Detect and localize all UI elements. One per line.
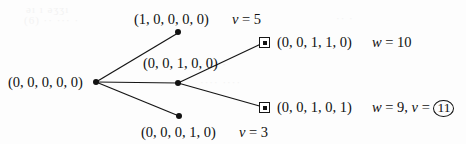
- node-label-leaf-top-text: (0, 0, 1, 1, 0): [277, 34, 352, 50]
- node-attr-leaf-bottom: w = 9, v = 11: [372, 100, 454, 117]
- node-label-leaf-top: (0, 0, 1, 1, 0): [277, 35, 352, 50]
- edge-middle-to-leaf-bottom: [178, 83, 263, 107]
- branch-and-bound-tree-figure: əı ı əʒʒı (6) ·· ··· · ·· · ·· ···· ····…: [0, 0, 466, 144]
- attr-equals-v: =: [422, 99, 430, 115]
- node-label-root: (0, 0, 0, 0, 0): [8, 75, 83, 90]
- node-label-leaf-bottom-text: (0, 0, 1, 0, 1): [277, 99, 352, 115]
- attr-variable-w: w: [372, 34, 382, 50]
- node-label-child-top-text: (1, 0, 0, 0, 0): [134, 11, 209, 27]
- node-label-child-top: (1, 0, 0, 0, 0): [134, 12, 209, 27]
- attr-variable-w: w: [372, 99, 382, 115]
- attr-value-w: = 10: [385, 34, 411, 50]
- node-attr-child-bottom: v = 3: [239, 125, 268, 140]
- node-marker-child-middle: [175, 80, 181, 86]
- attr-variable-v: v: [412, 99, 418, 115]
- attr-variable-v: v: [239, 124, 245, 140]
- node-attr-child-top: v = 5: [232, 12, 261, 27]
- circled-optimal-value: 11: [433, 100, 454, 117]
- node-label-child-bottom: (0, 0, 0, 1, 0): [141, 125, 216, 140]
- node-label-root-text: (0, 0, 0, 0, 0): [8, 74, 83, 90]
- attr-value-v: = 3: [249, 124, 268, 140]
- attr-value-v: = 5: [242, 11, 261, 27]
- node-label-leaf-bottom: (0, 0, 1, 0, 1): [277, 100, 352, 115]
- attr-value-w: = 9,: [385, 99, 408, 115]
- node-label-child-bottom-text: (0, 0, 0, 1, 0): [141, 124, 216, 140]
- node-marker-child-bottom: [176, 113, 182, 119]
- node-marker-child-top: [175, 29, 181, 35]
- node-marker-root: [93, 79, 99, 85]
- edge-root-to-middle: [96, 82, 178, 83]
- attr-variable-v: v: [232, 11, 238, 27]
- node-marker-leaf-bottom: [259, 102, 270, 113]
- node-attr-leaf-top: w = 10: [372, 35, 412, 50]
- node-label-child-middle-text: (0, 0, 1, 0, 0): [143, 55, 218, 71]
- edge-root-to-bottom: [96, 82, 179, 116]
- node-label-child-middle: (0, 0, 1, 0, 0): [143, 56, 218, 71]
- node-marker-leaf-top: [259, 37, 270, 48]
